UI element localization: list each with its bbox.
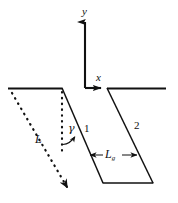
y-axis-label: y: [82, 6, 87, 17]
length-Lg-base: L: [105, 147, 112, 161]
x-axis-label: x: [96, 72, 101, 83]
slant-edge-two: [107, 88, 153, 183]
figure-canvas: [0, 0, 178, 203]
plane-two-label: 2: [134, 120, 140, 131]
length-Lg-subscript: g: [112, 154, 116, 162]
length-L-label: L: [35, 133, 42, 145]
length-Lg-label: Lg: [105, 148, 115, 162]
plane-one-label: 1: [84, 123, 90, 134]
angle-arc-arrow: [63, 137, 75, 145]
slant-edge-one: [62, 88, 103, 183]
geometry-figure: y x γ 1 2 L Lg: [0, 0, 178, 203]
angle-gamma-label: γ: [68, 123, 75, 134]
